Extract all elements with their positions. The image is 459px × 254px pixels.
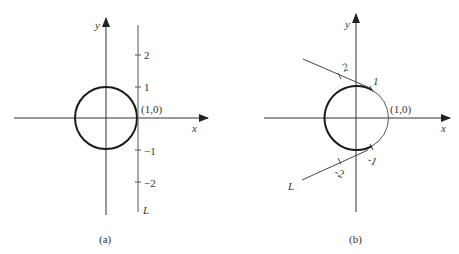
tick-label-neg2: -2 [333,165,346,180]
x-axis-label: x [191,122,197,134]
panel-a: 2 1 −1 −2 (1,0) x y L (a) [14,18,208,246]
tick-label-2: 2 [340,60,350,73]
tick-label-2: 2 [144,49,150,61]
tick-label-neg1: −1 [144,145,156,157]
line-l-upper [303,59,370,88]
y-axis-label: y [344,18,350,30]
tick-2 [338,73,341,79]
line-l-label: L [287,180,294,192]
tick-label-1: 1 [144,81,150,93]
point-label: (1,0) [390,103,411,116]
line-l-label: L [142,204,149,216]
panel-b: 2 1 -1 -2 (1,0) x y L (b) [264,14,450,246]
tick-label-1: 1 [373,75,379,87]
caption-b: (b) [349,233,362,246]
point-label: (1,0) [141,103,162,116]
tick-label-neg1: -1 [366,153,379,168]
x-axis-label: x [440,122,446,134]
y-axis-label: y [94,19,100,31]
figure: 2 1 −1 −2 (1,0) x y L (a) 2 1 -1 -2 (1,0… [0,0,459,254]
tick-label-neg2: −2 [144,177,156,189]
caption-a: (a) [99,233,112,246]
